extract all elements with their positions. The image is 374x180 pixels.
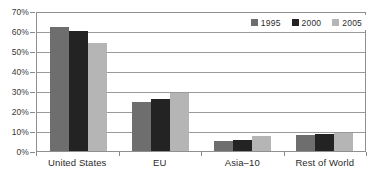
bar <box>252 136 271 151</box>
y-axis-tick-label: 30% <box>12 87 29 97</box>
y-axis-tick-label: 40% <box>12 67 29 77</box>
x-axis-category-label: Asia–10 <box>201 157 284 168</box>
x-axis-tick-mark <box>366 152 367 156</box>
bar <box>233 140 252 151</box>
bar <box>315 134 334 151</box>
x-axis-category-label: United States <box>36 157 119 168</box>
bar <box>69 31 88 151</box>
y-axis-tick-mark <box>30 132 35 133</box>
x-axis-tick-mark <box>201 152 202 156</box>
x-axis-ticks <box>36 152 366 156</box>
legend-label: 2005 <box>342 18 362 28</box>
chart-legend: 199520002005 <box>247 15 366 30</box>
x-axis-category-label: Rest of World <box>284 157 367 168</box>
y-axis-tick-mark <box>30 152 35 153</box>
bar <box>50 27 69 151</box>
legend-label: 1995 <box>261 18 281 28</box>
y-axis-tick-label: 0% <box>17 147 30 157</box>
y-axis-tick-label: 50% <box>12 47 29 57</box>
bar <box>334 133 353 151</box>
x-axis-tick-mark <box>284 152 285 156</box>
x-axis-labels: United StatesEUAsia–10Rest of World <box>36 157 366 168</box>
y-axis-tick-mark <box>30 112 35 113</box>
legend-swatch-icon <box>251 19 258 26</box>
legend-label: 2000 <box>302 18 322 28</box>
bar-chart: 70%60%50%40%30%20%10%0% United StatesEUA… <box>0 0 374 180</box>
x-axis-tick-mark <box>119 152 120 156</box>
y-axis-tick-label: 70% <box>12 7 29 17</box>
plot-area <box>36 12 366 152</box>
y-axis-tick-mark <box>30 32 35 33</box>
bar <box>132 102 151 151</box>
y-axis-tick-label: 10% <box>12 127 29 137</box>
bar <box>88 43 107 151</box>
bar <box>170 93 189 151</box>
x-axis-category-label: EU <box>119 157 202 168</box>
legend-item: 2005 <box>332 18 362 28</box>
bar <box>296 135 315 151</box>
legend-swatch-icon <box>332 19 339 26</box>
y-axis-tick-mark <box>30 12 35 13</box>
y-axis-tick-mark <box>30 52 35 53</box>
legend-item: 1995 <box>251 18 281 28</box>
y-axis: 70%60%50%40%30%20%10%0% <box>0 12 34 152</box>
y-axis-tick-label: 60% <box>12 27 29 37</box>
bar <box>214 141 233 151</box>
bar-groups <box>37 13 365 151</box>
y-axis-tick-label: 20% <box>12 107 29 117</box>
bar-group <box>37 13 119 151</box>
bar <box>151 99 170 151</box>
bar-group <box>201 13 283 151</box>
legend-item: 2000 <box>292 18 322 28</box>
y-axis-tick-mark <box>30 92 35 93</box>
bar-group <box>119 13 201 151</box>
x-axis-tick-mark <box>36 152 37 156</box>
legend-swatch-icon <box>292 19 299 26</box>
y-axis-tick-mark <box>30 72 35 73</box>
bar-group <box>283 13 365 151</box>
